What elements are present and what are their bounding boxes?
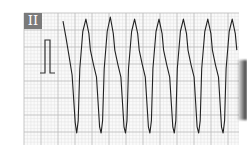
page-edge-shadow <box>237 60 247 120</box>
lead-label: II <box>24 13 42 29</box>
